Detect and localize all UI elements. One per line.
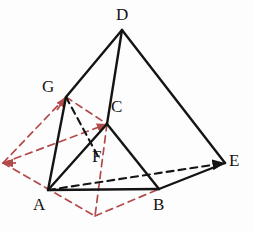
edge-G-A	[48, 97, 66, 190]
geometry-figure: DGCFEAB	[0, 0, 253, 232]
vertex-label-f: F	[92, 148, 101, 165]
edge-D-E	[122, 30, 225, 163]
aux-left-to-G	[3, 97, 66, 163]
aux-C-to-bottom	[95, 124, 107, 216]
edge-A-E-hidden	[48, 163, 225, 190]
vertex-label-a: A	[33, 196, 45, 213]
edge-A-B	[48, 189, 159, 190]
solid-edges-group	[48, 30, 225, 190]
vertex-label-b: B	[153, 196, 164, 213]
vertex-label-e: E	[229, 152, 239, 169]
aux-bottom-to-B	[95, 189, 159, 216]
vertex-label-g: G	[42, 78, 54, 95]
vertex-label-c: C	[111, 98, 122, 115]
edge-B-E	[159, 163, 225, 189]
hidden-edges-group	[48, 97, 225, 190]
auxiliary-edges-group	[3, 97, 159, 216]
vertex-label-d: D	[116, 6, 128, 23]
